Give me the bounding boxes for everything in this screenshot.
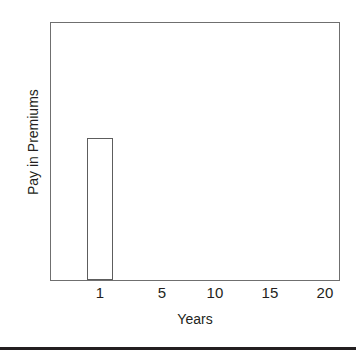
plot-area	[50, 22, 340, 281]
x-tick-label-10: 10	[206, 284, 223, 301]
y-axis-title: Pay in Premiums	[25, 89, 41, 195]
x-axis-title: Years	[177, 311, 212, 328]
x-tick-label-1: 1	[96, 284, 105, 301]
x-tick-label-20: 20	[316, 284, 333, 301]
bars-layer	[51, 23, 339, 280]
chart-figure: 15101520 Years Pay in Premiums	[0, 0, 356, 353]
x-tick-label-5: 5	[158, 284, 167, 301]
bar-1	[87, 138, 114, 280]
bottom-divider	[0, 347, 356, 350]
x-tick-label-15: 15	[261, 284, 278, 301]
